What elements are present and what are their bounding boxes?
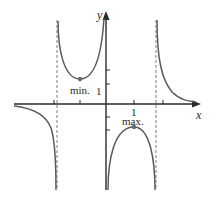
- min-label: min.: [70, 85, 90, 96]
- y-axis-label: y: [97, 9, 102, 21]
- left-branch-curve: [14, 106, 56, 190]
- chart-plot: [0, 0, 214, 199]
- middle-upper-curve: [58, 18, 104, 79]
- max-label: max.: [122, 116, 144, 127]
- middle-lower-curve: [108, 127, 155, 190]
- y-tick-label-one: 1: [96, 86, 102, 97]
- x-axis-label: x: [196, 109, 201, 121]
- right-branch-curve: [157, 20, 196, 102]
- min-point: [78, 77, 82, 81]
